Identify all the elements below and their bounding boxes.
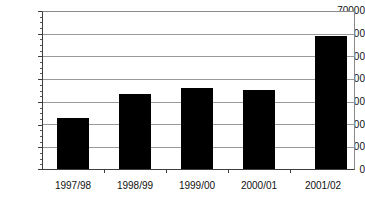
bar-1998-99[interactable] xyxy=(119,94,151,169)
bar-1999-00[interactable] xyxy=(181,88,213,169)
gridline-40000 xyxy=(43,79,354,80)
x-axis-label-1999-00: 1999/00 xyxy=(166,181,228,191)
bar-chart: 70000 60000 50000 40000 30000 20000 1000… xyxy=(0,0,365,199)
x-axis-label-1998-99: 1998/99 xyxy=(104,181,166,191)
x-tick xyxy=(290,169,291,173)
x-tick xyxy=(104,169,105,173)
bar-2001-02[interactable] xyxy=(315,36,347,169)
gridline-50000 xyxy=(43,56,354,57)
x-axis-label-1997-98: 1997/98 xyxy=(42,181,104,191)
bar-2000-01[interactable] xyxy=(243,90,275,169)
x-axis-label-2001-02: 2001/02 xyxy=(292,181,354,191)
bar-1997-98[interactable] xyxy=(57,118,89,169)
plot-area xyxy=(42,11,355,170)
x-tick xyxy=(228,169,229,173)
gridline-60000 xyxy=(43,34,354,35)
x-tick xyxy=(166,169,167,173)
x-axis-label-2000-01: 2000/01 xyxy=(228,181,290,191)
